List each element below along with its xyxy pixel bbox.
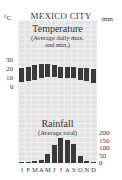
rain-bar <box>26 162 31 163</box>
rain-bar <box>32 161 37 163</box>
temp-bar <box>39 64 44 78</box>
temp-tick-30: 30 <box>6 57 13 64</box>
temp-bar <box>58 67 63 78</box>
rain-tick-100: 100 <box>99 145 110 152</box>
rain-bar <box>39 160 44 163</box>
celsius-unit-label: °C <box>4 14 11 22</box>
temp-bar <box>78 68 83 80</box>
rain-bar <box>45 154 50 163</box>
temp-bar <box>91 69 96 83</box>
rain-bar <box>58 138 63 163</box>
temp-bar <box>65 67 70 78</box>
temp-bar <box>26 67 31 82</box>
temp-bar <box>71 67 76 78</box>
temp-tick-0: 0 <box>10 84 14 91</box>
temp-bar <box>84 68 89 81</box>
rain-bar <box>84 161 89 163</box>
rainfall-title: Rainfall <box>18 118 97 129</box>
rain-bar <box>71 144 76 163</box>
temp-bar <box>52 65 57 77</box>
mm-unit-label: mm <box>102 15 113 23</box>
temp-tick-10: 10 <box>6 75 13 82</box>
rain-tick-0: 0 <box>99 160 103 167</box>
rain-bar <box>19 162 24 163</box>
temp-bar <box>32 65 37 80</box>
temp-tick-20: 20 <box>6 66 13 73</box>
rain-bar <box>91 162 96 163</box>
rain-tick-200: 200 <box>99 130 110 137</box>
temp-bar <box>45 64 50 77</box>
rainfall-subtitle: (Average total) <box>18 129 97 137</box>
rain-bar <box>65 140 70 163</box>
rain-bar <box>52 145 57 163</box>
rain-bar <box>78 156 83 163</box>
temperature-subtitle-2: and min.) <box>18 41 97 49</box>
month-label: D <box>90 166 97 173</box>
temperature-title: Temperature <box>18 23 97 34</box>
temp-bar <box>19 68 24 82</box>
